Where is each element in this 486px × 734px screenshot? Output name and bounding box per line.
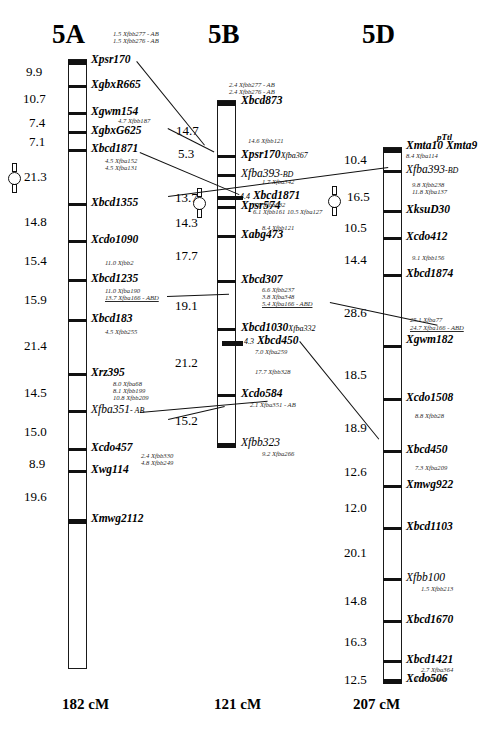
locus-suffix-5B-Xbcd1030: Xfba332 (288, 324, 315, 333)
chromosome-title-5D: 5D (362, 19, 395, 50)
distance-5A-4: 7.1 (29, 134, 45, 150)
distance-5A-9: 21.4 (24, 338, 47, 354)
locus-tick-5D-Xfbb100 (383, 578, 402, 581)
distance-5D-9: 12.0 (344, 500, 367, 516)
locus-label-5A-Xfba351: Xfba351- AB (91, 404, 144, 416)
locus-label-5B-Xpsr574: Xpsr574 (241, 200, 281, 211)
sub-5A-Xcdo1090-1: 11.0 Xfbb2 (105, 259, 133, 266)
locus-label-5B-Xcdo584: Xcdo584 (241, 388, 283, 399)
locus-label-5A-XgbxG625: XgbxG625 (91, 125, 141, 136)
distance-5D-12: 16.3 (344, 634, 367, 650)
distance-5A-6: 14.8 (24, 214, 47, 230)
centromere-5A-stem-top (12, 163, 17, 172)
locus-tick-5A-XgbxR665 (68, 85, 87, 88)
sub-5D-Xcdo412-1: 9.1 Xfbb156 (412, 254, 444, 261)
locus-name-5B-Xbcd1030: Xbcd1030 (241, 321, 288, 333)
total-cm-5A: 182 cM (62, 696, 109, 713)
distance-5D-2: 16.5 (347, 189, 370, 205)
locus-tick-5B-Xbcd873 (217, 101, 236, 106)
sub-5A-Xbcd183-1: 4.5 Xfbb255 (105, 328, 137, 335)
distance-5A-1: 9.9 (26, 64, 42, 80)
chromosome-title-5B: 5B (208, 19, 240, 50)
locus-label-5B-Xabg473: Xabg473 (241, 229, 283, 240)
locus-label-5D-Xfbb100: Xfbb100 (406, 572, 445, 583)
locus-label-5A-Xbcd1355: Xbcd1355 (91, 197, 138, 208)
locus-label-5A-Xwg114: Xwg114 (91, 464, 129, 475)
locus-tick-5A-Xbcd1355 (68, 203, 87, 206)
locus-label-5D-Xfba393: Xfba393-BD (406, 164, 458, 176)
distance-5A-7: 15.4 (24, 253, 47, 269)
locus-tick-5A-Xfba351 (68, 410, 87, 413)
distance-5D-13: 12.5 (344, 672, 367, 688)
distance-5B-6: 19.1 (175, 298, 198, 314)
distance-5A-3: 7.4 (29, 115, 45, 131)
locus-label-5D-Xcdo1508: Xcdo1508 (406, 392, 453, 403)
centromere-5B-ball (193, 197, 206, 210)
centromere-5D-ball (328, 195, 341, 208)
locus-tick-5A-Xmwg2112 (68, 519, 87, 524)
distance-5D-6: 18.5 (344, 367, 367, 383)
locus-name-5A-Xfba351: Xfba351 (91, 403, 130, 415)
locus-tick-5D-Xcdo1508 (383, 398, 402, 401)
sub-5B-Xbcd450-1: 7.0 Xfba259 (255, 348, 287, 355)
linkage-map-figure: 5A 5B 5D 1.5 Xfbb277 - AB 1.5 Xfbb276 - … (0, 0, 486, 734)
locus-tick-5D-Xfba393 (383, 170, 402, 173)
centromere-5A (8, 163, 21, 193)
locus-label-5D-Xbcd1421: Xbcd1421 (406, 654, 453, 665)
locus-tick-5A-Xpsr170 (68, 60, 87, 65)
locus-label-5B-Xbcd873: Xbcd873 (241, 95, 283, 106)
locus-tick-5D-Xcdo412 (383, 237, 402, 240)
locus-tick-5B-Xabg473 (217, 235, 236, 238)
sub-5D-Xfba393-2: 11.8 Xfba137 (412, 188, 447, 195)
locus-label-5D-Xcdo506: Xcdo506 (406, 673, 448, 684)
locus-label-5D-Xbcd450: Xbcd450 (406, 444, 448, 455)
locus-label-5D-XksuD30: XksuD30 (406, 204, 450, 215)
locus-label-5B-Xbcd450: 4.3 Xbcd450 (244, 335, 298, 347)
locus-label-5A-Xmwg2112: Xmwg2112 (91, 513, 143, 524)
locus-label-5B-Xfbb323: Xfbb323 (241, 437, 280, 448)
locus-suffix-5A-Xfba351: - AB (130, 406, 144, 415)
centromere-5A-ball (8, 172, 21, 185)
centromere-5D (328, 186, 341, 216)
distance-5A-11: 15.0 (24, 424, 47, 440)
homoeology-link-Xbcd450-B-D (299, 341, 379, 440)
distance-5B-2: 5.3 (178, 146, 194, 162)
locus-suffix-5B-Xpsr170: Xfba367 (281, 151, 308, 160)
locus-tick-5D-Xbcd1103 (383, 527, 402, 530)
locus-tick-5D-XksuD30 (383, 210, 402, 213)
locus-label-5A-Xbcd1235: Xbcd1235 (91, 273, 138, 284)
locus-label-5A-Xcdo1090: Xcdo1090 (91, 234, 138, 245)
locus-tick-5A-Xbcd183 (68, 319, 87, 322)
distance-5A-10: 14.5 (24, 385, 47, 401)
locus-tick-5B-Xbcd307 (217, 280, 236, 283)
locus-label-5D-pTtl: pTtl (437, 132, 452, 143)
sub-5A-Xbcd1871-2: 4.5 Xfba131 (105, 164, 137, 171)
sub-5B-Xbcd307-3: 5.4 Xfba166 - ABD (262, 300, 312, 307)
locus-label-5B-Xbcd307: Xbcd307 (241, 274, 283, 285)
locus-label-5A-Xpsr170: Xpsr170 (91, 54, 131, 65)
locus-tick-5B-Xfbb323 (217, 443, 236, 448)
locus-label-5B-Xbcd1030: Xbcd1030Xfba332 (241, 322, 315, 334)
centromere-5D-stem-top (332, 186, 337, 195)
locus-tick-5D-Xbcd1421 (383, 660, 402, 663)
locus-tick-5B-Xpsr574 (217, 206, 236, 209)
sub-5A-Xbcd1235-2: 13.7 Xfba166 - ABD (105, 294, 159, 301)
locus-name-5B-Xbcd450: Xbcd450 (257, 334, 299, 346)
locus-tick-5B-Xpsr170 (217, 155, 236, 158)
locus-tick-5D-Xcdo506 (383, 679, 402, 684)
distance-5A-5: 21.3 (24, 169, 47, 185)
locus-tick-5B-Xcdo584 (217, 394, 236, 397)
total-cm-5D: 207 cM (353, 696, 400, 713)
chromosome-title-5A: 5A (52, 19, 85, 50)
locus-label-5A-Xrz395: Xrz395 (91, 367, 125, 378)
locus-tick-5A-Xbcd1235 (68, 279, 87, 282)
sub-5A-Xcdo457-2: 4.8 Xfbb249 (141, 459, 173, 466)
locus-label-5D-Xbcd1103: Xbcd1103 (406, 521, 453, 532)
distance-5A-12: 8.9 (29, 456, 45, 472)
distance-5D-1: 10.4 (344, 152, 367, 168)
locus-name-5D-Xfba393: Xfba393 (406, 163, 445, 175)
locus-label-5D-Xbcd1670: Xbcd1670 (406, 614, 453, 625)
centromere-5B-stem-bottom (197, 209, 202, 218)
distance-5D-11: 14.8 (344, 593, 367, 609)
locus-tick-5A-Xwg114 (68, 470, 87, 473)
